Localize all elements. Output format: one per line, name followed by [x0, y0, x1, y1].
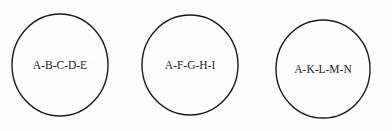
- diagram-canvas: A-B-C-D-E A-F-G-H-I A-K-L-M-N: [0, 0, 392, 131]
- node-3: A-K-L-M-N: [276, 20, 370, 118]
- diagram-svg: A-B-C-D-E A-F-G-H-I A-K-L-M-N: [0, 0, 392, 131]
- node-1: A-B-C-D-E: [12, 14, 108, 116]
- node-label: A-K-L-M-N: [294, 63, 352, 75]
- node-2: A-F-G-H-I: [142, 15, 238, 115]
- node-label: A-F-G-H-I: [165, 59, 216, 71]
- node-label: A-B-C-D-E: [33, 59, 87, 71]
